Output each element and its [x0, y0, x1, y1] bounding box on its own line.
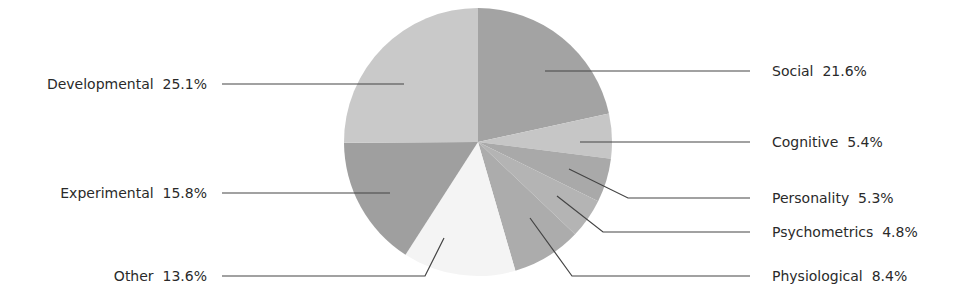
slice-label-personality: Personality 5.3%: [772, 190, 894, 206]
slice-label-other: Other 13.6%: [114, 268, 207, 284]
slice-label-social: Social 21.6%: [772, 63, 867, 79]
slice-label-physiological: Physiological 8.4%: [772, 268, 907, 284]
pie-slice-developmental: [344, 8, 478, 143]
slice-label-developmental: Developmental 25.1%: [47, 76, 207, 92]
slice-label-experimental: Experimental 15.8%: [60, 185, 207, 201]
slice-label-psychometrics: Psychometrics 4.8%: [772, 224, 918, 240]
slice-label-cognitive: Cognitive 5.4%: [772, 134, 883, 150]
